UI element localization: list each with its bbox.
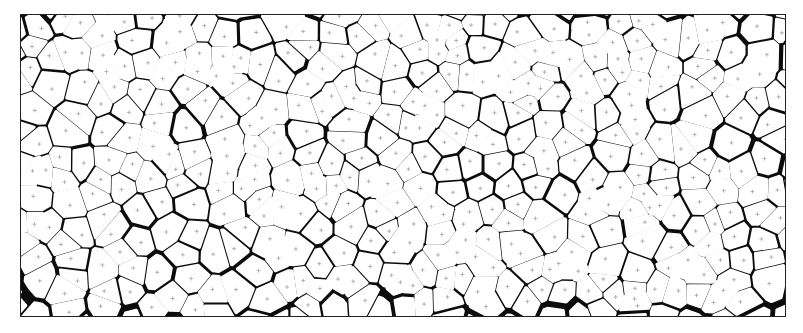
- grain-cell: [536, 159, 557, 177]
- grain-cell: [652, 162, 676, 179]
- grain-cell: [537, 308, 570, 317]
- grain-cell: [771, 306, 786, 317]
- grain-cell: [323, 295, 348, 317]
- grain-cell: [784, 46, 786, 68]
- grain-cell: [436, 157, 461, 179]
- grain-cell: [515, 155, 535, 178]
- grain-cell: [215, 15, 239, 18]
- cell-structure-diagram: [20, 14, 786, 317]
- grain-cell: [535, 113, 561, 138]
- grain-cell: [610, 15, 631, 33]
- grain-cell: [21, 209, 26, 234]
- grain-cell: [395, 298, 415, 317]
- grain-cell: [718, 204, 742, 227]
- grain-cell: [137, 15, 161, 27]
- grain-cell: [469, 262, 505, 276]
- grain-cell: [119, 31, 150, 52]
- grain-cell: [272, 311, 287, 317]
- grain-cell: [416, 289, 432, 317]
- grain-cell: [435, 289, 463, 311]
- grain-cell: [732, 248, 752, 272]
- grain-cell: [21, 187, 51, 210]
- grain-cell: [550, 282, 574, 302]
- grain-cell: [775, 19, 786, 42]
- grain-cell: [623, 254, 654, 281]
- grain-cell: [651, 179, 678, 194]
- grain-cell: [680, 17, 697, 58]
- grain-cell: [651, 306, 677, 317]
- grain-cell: [165, 244, 197, 265]
- grain-cell: [767, 82, 786, 111]
- grain-cell: [51, 148, 70, 170]
- grain-cell: [38, 156, 52, 186]
- grain-cell: [21, 18, 24, 40]
- grain-cell: [751, 229, 777, 250]
- grain-cell: [460, 62, 473, 90]
- grain-cell: [770, 176, 787, 205]
- grain-cell: [592, 218, 621, 246]
- grain-cell: [54, 189, 85, 217]
- grain-cell: [486, 15, 508, 38]
- grain-cell: [273, 162, 303, 194]
- grain-cell: [205, 306, 234, 317]
- grain-cell: [116, 15, 134, 33]
- grain-cell: [181, 222, 207, 247]
- grain-cell: [461, 150, 480, 178]
- grain-cell: [474, 63, 492, 96]
- grain-cell: [26, 15, 52, 38]
- cells-svg: [21, 15, 786, 317]
- grain-cell: [176, 190, 207, 218]
- grain-cell: [742, 15, 771, 41]
